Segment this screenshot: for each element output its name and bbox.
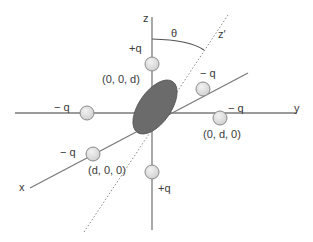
charge-label-back: − q [200, 67, 216, 79]
charge-sphere-back [196, 82, 210, 96]
z-prime-label: z′ [218, 28, 226, 40]
charge-sphere-front [86, 147, 100, 161]
y-axis-label: y [294, 102, 300, 114]
coord-label-right: (0, d, 0) [203, 128, 241, 140]
x-axis-label: x [19, 181, 25, 193]
charge-sphere-top [145, 57, 159, 71]
charge-label-right: − q [228, 102, 244, 114]
charge-distribution-diagram: z y x z′ θ +q (0, 0, d) +q − q − q (0, d… [0, 0, 313, 242]
z-axis-label: z [143, 12, 149, 24]
diagram-canvas: z y x z′ θ +q (0, 0, d) +q − q − q (0, d… [0, 0, 313, 242]
theta-label: θ [171, 27, 177, 39]
charge-label-bottom: +q [158, 182, 171, 194]
charge-sphere-right [213, 111, 227, 125]
charge-sphere-bottom [145, 165, 159, 179]
coord-label-front: (d, 0, 0) [88, 164, 126, 176]
theta-arc [152, 39, 204, 50]
charge-label-front: − q [60, 146, 76, 158]
charge-label-top: +q [129, 42, 142, 54]
charge-label-left: − q [54, 101, 70, 113]
coord-label-top: (0, 0, d) [102, 73, 140, 85]
charge-sphere-left [80, 106, 94, 120]
